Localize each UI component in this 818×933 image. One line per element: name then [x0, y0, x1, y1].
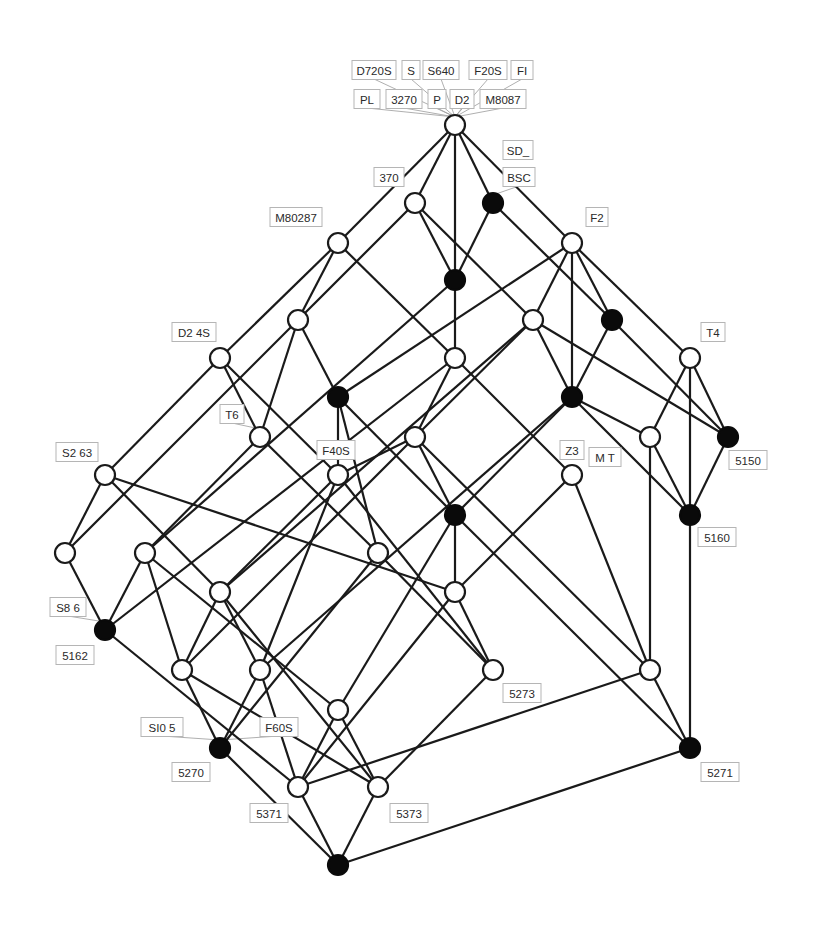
- node-label: T6: [220, 405, 244, 424]
- node-label: F40S: [317, 441, 355, 460]
- filled-node-circle: [602, 310, 622, 330]
- node-label: 5270: [172, 763, 210, 782]
- label-text: F20S: [474, 65, 502, 77]
- lattice-edge: [298, 787, 338, 865]
- open-node-circle: [640, 427, 660, 447]
- open-node-circle: [172, 660, 192, 680]
- lattice-edge: [455, 515, 690, 748]
- node-label: D2: [450, 90, 474, 109]
- open-node-circle: [680, 348, 700, 368]
- filled-node-circle: [328, 387, 348, 407]
- open-node-circle: [288, 777, 308, 797]
- node-label: M T: [589, 448, 621, 467]
- node-label: P: [428, 90, 446, 109]
- label-text: Z3: [565, 445, 578, 457]
- open-node-circle: [445, 582, 465, 602]
- label-text: 5271: [707, 767, 733, 779]
- node-label: 5162: [56, 646, 94, 665]
- lattice-nodes: [55, 115, 738, 875]
- label-text: 370: [379, 172, 398, 184]
- open-node-circle: [640, 660, 660, 680]
- node-label: S2 63: [56, 443, 98, 462]
- label-text: T4: [706, 327, 720, 339]
- open-node-circle: [405, 427, 425, 447]
- lattice-edge: [298, 243, 338, 320]
- node-label: Z3: [560, 441, 584, 460]
- open-node-circle: [328, 465, 348, 485]
- label-text: SI0 5: [149, 722, 176, 734]
- node-label: M80287: [270, 208, 322, 227]
- node-label: SD_: [503, 141, 533, 160]
- node-label: F60S: [260, 718, 298, 737]
- open-node-circle: [445, 348, 465, 368]
- label-text: 5270: [178, 767, 204, 779]
- lattice-edge: [455, 125, 493, 203]
- open-node-circle: [562, 233, 582, 253]
- node-label: 5160: [698, 528, 736, 547]
- label-text: D2 4S: [178, 327, 210, 339]
- node-label: 5271: [701, 763, 739, 782]
- label-text: SD_: [507, 145, 530, 157]
- label-text: BSC: [507, 172, 531, 184]
- open-node-circle: [95, 465, 115, 485]
- lattice-edge: [145, 553, 182, 670]
- open-node-circle: [562, 465, 582, 485]
- label-text: D720S: [356, 65, 391, 77]
- open-node-circle: [328, 233, 348, 253]
- label-text: S8 6: [56, 602, 80, 614]
- lattice-edges: [65, 125, 728, 865]
- lattice-edge: [572, 320, 612, 397]
- open-node-circle: [368, 543, 388, 563]
- lattice-edge: [338, 243, 455, 358]
- node-label: BSC: [503, 168, 535, 187]
- lattice-edge: [415, 125, 455, 203]
- open-node-circle: [55, 543, 75, 563]
- node-label: M8087: [480, 90, 526, 109]
- label-text: M8087: [485, 94, 520, 106]
- lattice-edge: [220, 243, 338, 358]
- lattice-edge: [650, 437, 690, 515]
- label-text: M T: [595, 452, 615, 464]
- filled-node-circle: [210, 738, 230, 758]
- lattice-edge: [690, 437, 728, 515]
- node-label: FI: [511, 61, 533, 80]
- node-label: 5371: [250, 804, 288, 823]
- label-text: 5373: [396, 808, 422, 820]
- node-label: F20S: [469, 61, 507, 80]
- concept-lattice-diagram: D720SSS640F20SFIPL3270PD2M8087SD_BSC370M…: [0, 0, 818, 933]
- node-label: SI0 5: [141, 718, 183, 737]
- label-text: 3270: [391, 94, 417, 106]
- node-label: 5150: [729, 451, 767, 470]
- open-node-circle: [445, 115, 465, 135]
- label-text: 5162: [62, 650, 88, 662]
- label-text: F2: [590, 212, 603, 224]
- node-label: D720S: [352, 61, 396, 80]
- label-text: F40S: [322, 445, 350, 457]
- label-text: D2: [455, 94, 470, 106]
- lattice-edge: [415, 437, 455, 515]
- filled-node-circle: [718, 427, 738, 447]
- label-text: 5371: [256, 808, 282, 820]
- node-label: 370: [374, 168, 404, 187]
- node-label: D2 4S: [172, 323, 216, 342]
- label-text: 5160: [704, 532, 730, 544]
- node-label: 5273: [503, 684, 541, 703]
- node-label: S8 6: [50, 598, 86, 617]
- lattice-edge: [572, 243, 612, 320]
- lattice-edge: [572, 397, 650, 437]
- lattice-edge: [572, 475, 650, 670]
- lattice-edge: [182, 592, 220, 670]
- filled-node-circle: [680, 738, 700, 758]
- lattice-edge: [298, 320, 338, 397]
- label-text: S640: [428, 65, 455, 77]
- filled-node-circle: [328, 855, 348, 875]
- lattice-edge: [220, 670, 260, 748]
- label-text: T6: [225, 409, 238, 421]
- open-node-circle: [328, 700, 348, 720]
- filled-node-circle: [680, 505, 700, 525]
- lattice-edge: [260, 475, 338, 670]
- open-node-circle: [405, 193, 425, 213]
- lattice-edge: [415, 203, 533, 320]
- label-text: P: [433, 94, 441, 106]
- open-node-circle: [210, 582, 230, 602]
